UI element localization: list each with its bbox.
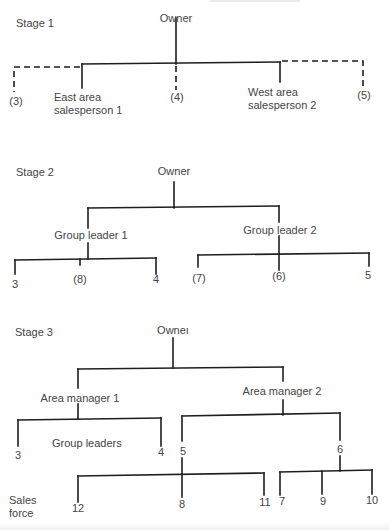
stage-1-west-salesperson: West area salesperson 2: [248, 86, 317, 112]
s1-dashed-right: [282, 61, 363, 88]
stage-3-node-5: 5: [180, 445, 186, 457]
s3-gl6-bar: [280, 470, 372, 472]
stage-3-node-11: 11: [259, 496, 270, 508]
s3-am1-bar: [18, 418, 161, 420]
s2-bar: [88, 206, 279, 208]
stage-1-node-3: (3): [9, 95, 22, 107]
stage-2-group-leader-2: Group leader 2: [243, 224, 316, 236]
stage-3-label: Stage 3: [15, 326, 53, 338]
stage-1-owner: Owner: [160, 12, 192, 24]
s3-am2-bar: [182, 413, 340, 416]
s2-gl1-bar: [15, 258, 156, 260]
stage-3-node-8: 8: [179, 498, 185, 510]
s3-gl5-bar: [78, 473, 264, 476]
stage-3-area-manager-1: Area manager 1: [41, 392, 120, 404]
stage-3-sales-force-label: Sales force: [9, 494, 37, 520]
s2-gl2-bar: [198, 253, 369, 255]
stage-1-label: Stage 1: [16, 17, 54, 29]
page-edge-shadow: [0, 522, 389, 530]
stage-2-node-7: (7): [192, 272, 205, 284]
stage-3-node-3: 3: [15, 449, 21, 461]
stage-3-owner: Owneı: [157, 324, 189, 336]
stage-3-node-12: 12: [72, 502, 84, 514]
stage-3-node-9: 9: [320, 495, 326, 507]
s1-dashed-left: [14, 67, 80, 92]
s3-bar: [78, 367, 283, 369]
stage-3-node-7: 7: [279, 495, 285, 507]
org-chart-connectors: [0, 0, 389, 530]
stage-2-node-8: (8): [73, 273, 86, 285]
stage-2-label: Stage 2: [16, 166, 54, 178]
stage-1-node-4: (4): [170, 91, 183, 103]
stage-3-node-4: 4: [158, 446, 164, 458]
stage-3-node-10: 10: [366, 494, 378, 506]
s1-solid-bar: [82, 62, 280, 64]
stage-2-group-leader-1: Group leader 1: [54, 229, 127, 241]
stage-2-owner: Owner: [158, 165, 190, 177]
stage-2-node-3: 3: [12, 278, 18, 290]
stage-2-node-5: 5: [365, 269, 371, 281]
stage-1-node-5: (5): [357, 89, 370, 101]
stage-3-node-6: 6: [337, 443, 343, 455]
stage-1-east-salesperson: East area salesperson 1: [54, 91, 123, 117]
stage-3-area-manager-2: Area manager 2: [243, 385, 322, 397]
stage-2-node-6: (6): [272, 270, 285, 282]
stage-2-node-4: 4: [153, 273, 159, 285]
stage-3-group-leaders-label: Group leaders: [52, 437, 122, 449]
